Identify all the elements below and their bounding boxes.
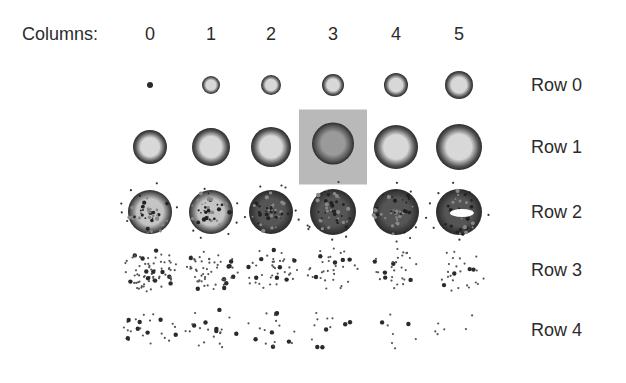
colony-spot-r3-c0 xyxy=(116,236,184,304)
column-header-0: 0 xyxy=(145,25,155,43)
colony-spot-r1-c5 xyxy=(425,113,493,181)
row-label-2: Row 2 xyxy=(531,203,582,221)
colony-spot-r0-c5 xyxy=(425,51,493,119)
colony-spot-r0-c1 xyxy=(177,51,245,119)
colony-spot-r4-c3 xyxy=(299,296,367,364)
colony-spot-r3-c1 xyxy=(177,236,245,304)
colony-spot-r3-c2 xyxy=(237,236,305,304)
columns-label: Columns: xyxy=(22,25,98,43)
colony-spot-r4-c4 xyxy=(362,296,430,364)
colony-spot-r4-c5 xyxy=(425,296,493,364)
colony-spot-r1-c3 xyxy=(299,110,367,185)
colony-spot-r4-c1 xyxy=(177,296,245,364)
column-header-4: 4 xyxy=(391,25,401,43)
colony-spot-r0-c4 xyxy=(362,51,430,119)
colony-spot-r4-c0 xyxy=(116,296,184,364)
colony-spot-r1-c4 xyxy=(362,113,430,181)
colony-spot-r0-c2 xyxy=(237,51,305,119)
column-header-5: 5 xyxy=(454,25,464,43)
colony-spot-r1-c1 xyxy=(177,113,245,181)
colony-spot-r0-c0 xyxy=(116,51,184,119)
row-label-1: Row 1 xyxy=(531,138,582,156)
row-label-0: Row 0 xyxy=(531,76,582,94)
colony-spot-r1-c0 xyxy=(116,113,184,181)
row-label-3: Row 3 xyxy=(531,261,582,279)
colony-spot-r3-c3 xyxy=(299,236,367,304)
colony-spot-r3-c5 xyxy=(425,236,493,304)
colony-spot-r3-c4 xyxy=(362,236,430,304)
column-header-1: 1 xyxy=(206,25,216,43)
colony-spot-r1-c2 xyxy=(237,113,305,181)
column-header-2: 2 xyxy=(266,25,276,43)
row-label-4: Row 4 xyxy=(531,321,582,339)
colony-spot-r4-c2 xyxy=(237,296,305,364)
column-header-3: 3 xyxy=(328,25,338,43)
